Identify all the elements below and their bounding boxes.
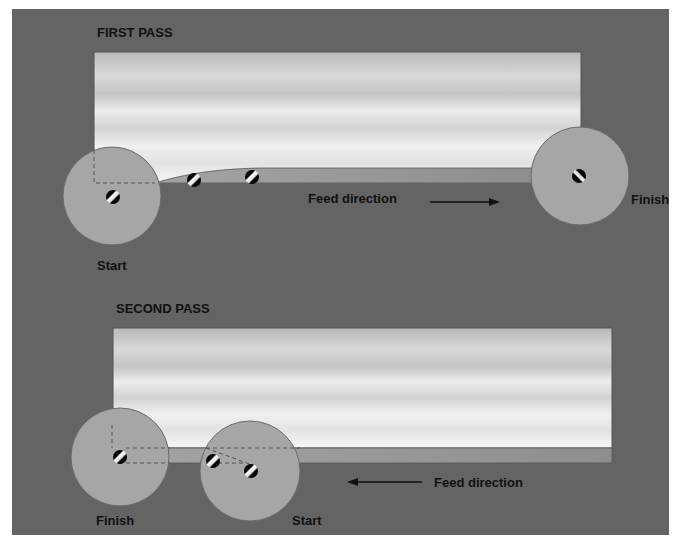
screw-icon	[206, 454, 220, 468]
screw-icon	[245, 170, 259, 184]
second-pass-feed-label: Feed direction	[434, 475, 523, 490]
first-pass-feed-label: Feed direction	[308, 191, 397, 206]
screw-icon	[244, 464, 258, 478]
screw-icon	[113, 450, 127, 464]
diagram-canvas: FIRST PASS Feed direction Sta	[0, 0, 686, 556]
first-pass-title: FIRST PASS	[97, 25, 173, 40]
first-pass-finish-label: Finish	[631, 192, 669, 207]
second-pass-ground-strip	[113, 448, 612, 463]
second-pass-workpiece	[113, 328, 612, 448]
screw-icon	[572, 169, 586, 183]
second-pass-title: SECOND PASS	[116, 301, 210, 316]
second-pass-finish-label: Finish	[96, 513, 134, 528]
screw-icon	[106, 190, 120, 204]
second-pass-start-label: Start	[292, 513, 322, 528]
first-pass-start-label: Start	[97, 258, 127, 273]
screw-icon	[187, 173, 201, 187]
first-pass-workpiece	[94, 52, 581, 183]
